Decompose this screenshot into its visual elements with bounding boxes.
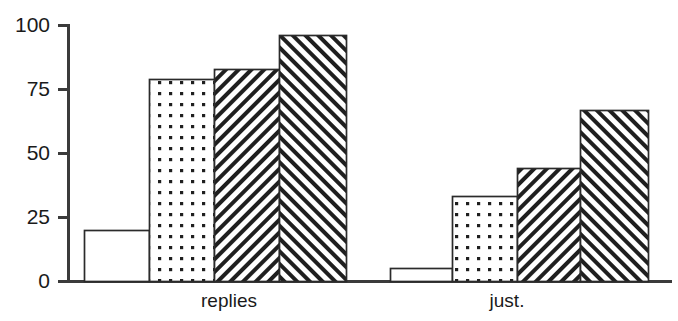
y-tick-label-100: 100 (15, 13, 50, 36)
bar-chart: 100 75 50 25 0 replies just. (0, 0, 678, 321)
x-label-just: just. (489, 290, 525, 311)
bar-just-series-4 (581, 111, 649, 282)
bar-replies-series-1 (85, 231, 150, 282)
x-axis-labels: replies just. (201, 290, 524, 311)
bar-just-series-1 (391, 269, 453, 282)
y-tick-label-75: 75 (27, 77, 50, 100)
bar-just-series-3 (518, 169, 581, 282)
chart-canvas: 100 75 50 25 0 replies just. (0, 0, 678, 321)
y-tick-label-50: 50 (27, 141, 50, 164)
bar-group-replies (85, 36, 347, 282)
y-tick-label-25: 25 (27, 205, 50, 228)
y-tick-label-0: 0 (38, 269, 50, 292)
y-axis: 100 75 50 25 0 (15, 13, 69, 292)
x-label-replies: replies (201, 290, 257, 311)
bar-replies-series-4 (280, 36, 347, 282)
bar-just-series-2 (453, 197, 518, 282)
bar-replies-series-2 (150, 80, 215, 282)
bar-group-just (391, 111, 649, 282)
bar-replies-series-3 (215, 70, 280, 282)
